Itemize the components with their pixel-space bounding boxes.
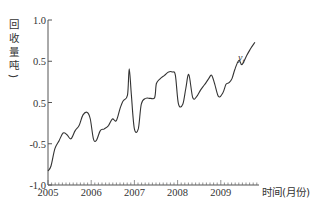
y-axis-title: 回 收 量 吨 ) — [8, 18, 20, 78]
series-label-yt: yt — [237, 52, 245, 65]
line-chart: 回 收 量 吨 ) 1.00.50.5-0.5-1.0 200520062007… — [0, 0, 315, 211]
x-tick-label: 2007 — [124, 187, 145, 198]
y-tick-label: 1.0 — [33, 15, 46, 26]
y-tick-label: 0.5 — [33, 98, 46, 109]
x-tick-label: 2005 — [38, 187, 59, 198]
y-axis-title-char-3: 吨 — [9, 59, 20, 71]
y-axis-title-char-2: 量 — [9, 46, 20, 58]
x-tick-label: 2009 — [210, 187, 231, 198]
x-tick-label: 2008 — [167, 187, 188, 198]
x-axis-ticks: 20052006200720082009 — [38, 180, 257, 198]
y-tick-label: -0.5 — [29, 139, 46, 150]
x-tick-label: 2006 — [81, 187, 102, 198]
y-axis-title-char-4: ) — [8, 74, 20, 78]
y-axis-title-char-0: 回 — [9, 18, 19, 30]
series-line-yt — [48, 42, 255, 171]
y-tick-label: 0.5 — [33, 56, 46, 67]
x-axis-title: 时间(月份) — [262, 186, 310, 198]
y-axis-ticks: 1.00.50.5-0.5-1.0 — [29, 15, 52, 191]
y-axis-title-char-1: 收 — [9, 32, 20, 44]
